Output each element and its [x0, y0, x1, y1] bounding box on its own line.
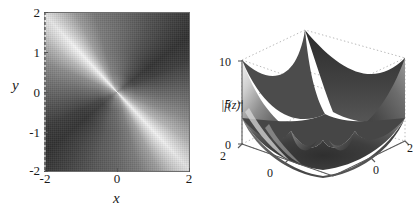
ytick-label-2: 2: [22, 6, 40, 19]
ztick-label-5: 5: [219, 98, 231, 110]
ytick3d-label-0: 0: [267, 167, 273, 179]
figure-container: 2 1 0 -1 -2 -2 0 2 y x: [0, 0, 415, 212]
xtick3d-label-0: 0: [373, 164, 379, 176]
density-image: [45, 13, 189, 171]
xtick3d-label-2: 2: [407, 142, 413, 154]
ytick-label-minus-1: -1: [22, 126, 40, 139]
ytick-mark-2: [44, 12, 48, 13]
right-panel-surface-plot: |f(z)| 10 5 0 2 0 0 2: [205, 0, 415, 212]
density-grain-texture: [44, 12, 190, 172]
ytick-mark-m1: [44, 132, 48, 133]
ytick-mark-1: [44, 52, 48, 53]
left-plot-area: [44, 12, 190, 172]
ytick-label-1: 1: [22, 46, 40, 59]
left-panel-density-plot: 2 1 0 -1 -2 -2 0 2 y x: [0, 0, 205, 212]
ytick-label-0: 0: [22, 86, 40, 99]
left-plot-y-axis-label: y: [12, 77, 19, 94]
surface-mesh: [242, 30, 405, 178]
ytick-mark-0: [44, 92, 48, 93]
ytick3d-label-2: 2: [220, 150, 226, 162]
xtick-label-minus-2: -2: [32, 172, 58, 185]
left-plot-x-axis-label: x: [113, 190, 120, 207]
xtick-label-2: 2: [176, 172, 202, 185]
xtick-label-0: 0: [104, 172, 130, 185]
ztick-label-10: 10: [213, 56, 231, 68]
